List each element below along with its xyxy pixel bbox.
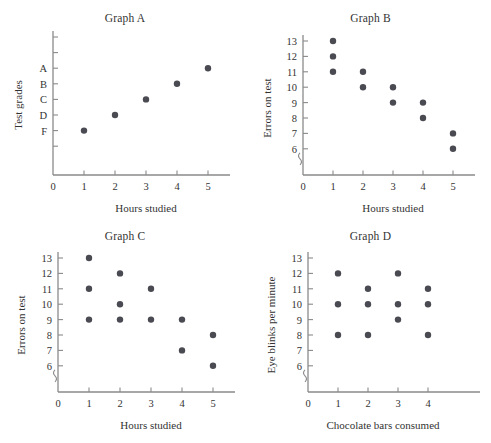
data-point <box>117 316 123 322</box>
y-tick-label: 10 <box>42 299 53 310</box>
x-origin-label: 0 <box>300 181 305 192</box>
data-point <box>330 69 336 75</box>
panel-graph-c: Graph C 123450Hours studied131211109876E… <box>0 220 250 443</box>
data-point <box>425 332 431 338</box>
y-tick-label: 8 <box>47 330 52 341</box>
y-axis-title: Eye blinks per minute <box>265 276 277 373</box>
data-point <box>174 81 180 87</box>
y-axis-title: Errors on test <box>261 78 273 137</box>
x-tick-label: 4 <box>420 181 426 192</box>
x-origin-label: 0 <box>50 181 55 192</box>
x-origin-label: 0 <box>305 398 310 409</box>
data-point <box>450 146 456 152</box>
y-tick-label: 8 <box>292 113 297 124</box>
data-point <box>210 363 216 369</box>
data-point <box>360 84 366 90</box>
y-tick-label: 12 <box>287 51 298 62</box>
data-point <box>390 84 396 90</box>
y-tick-label: 12 <box>42 268 53 279</box>
x-tick-label: 3 <box>143 181 148 192</box>
x-tick-label: 2 <box>365 398 370 409</box>
data-point <box>420 99 426 105</box>
y-tick-label: D <box>39 110 47 121</box>
y-tick-label: 9 <box>47 315 52 326</box>
data-point <box>425 301 431 307</box>
data-point <box>81 127 87 133</box>
y-tick-label: B <box>40 79 47 90</box>
x-tick-label: 2 <box>360 181 365 192</box>
data-point <box>117 270 123 276</box>
data-point <box>148 286 154 292</box>
data-point <box>395 270 401 276</box>
panel-graph-a: Graph A 123450Hours studiedABCDFTest gra… <box>0 0 250 220</box>
data-point <box>205 65 211 71</box>
x-tick-label: 1 <box>81 181 86 192</box>
y-tick-label: 7 <box>47 345 52 356</box>
y-tick-label: 7 <box>292 128 297 139</box>
x-tick-label: 5 <box>205 181 210 192</box>
data-point <box>425 286 431 292</box>
y-tick-label: 13 <box>287 36 298 47</box>
data-point <box>365 286 371 292</box>
data-point <box>86 286 92 292</box>
x-tick-label: 1 <box>335 398 340 409</box>
y-axis-title: Errors on test <box>15 295 27 354</box>
x-tick-label: 4 <box>179 398 185 409</box>
plot-area-graph-d: 12340Chocolate bars consumed131211109876… <box>250 220 491 443</box>
data-point <box>117 301 123 307</box>
x-origin-label: 0 <box>55 398 60 409</box>
x-tick-label: 3 <box>390 181 395 192</box>
y-tick-label: C <box>40 94 47 105</box>
y-tick-label: 11 <box>287 67 297 78</box>
plot-area-graph-a: 123450Hours studiedABCDFTest grades <box>0 0 250 220</box>
y-tick-label: F <box>41 126 47 137</box>
panel-graph-b: Graph B 123450Hours studied131211109876E… <box>250 0 491 220</box>
data-point <box>335 270 341 276</box>
data-point <box>330 53 336 59</box>
x-tick-label: 4 <box>174 181 180 192</box>
data-point <box>365 301 371 307</box>
data-point <box>390 99 396 105</box>
axis-break-icon <box>304 370 307 382</box>
x-axis-title: Hours studied <box>115 202 177 214</box>
y-tick-label: 8 <box>297 330 302 341</box>
plot-area-graph-c: 123450Hours studied131211109876Errors on… <box>0 220 250 443</box>
y-axis-title: Test grades <box>12 80 24 130</box>
y-tick-label: 6 <box>47 361 52 372</box>
x-axis-title: Hours studied <box>362 202 424 214</box>
panel-graph-d: Graph D 12340Chocolate bars consumed1312… <box>250 220 491 443</box>
y-tick-label: 9 <box>297 315 302 326</box>
axis-break-icon <box>54 370 57 382</box>
x-tick-label: 1 <box>86 398 91 409</box>
y-tick-label: 10 <box>287 82 298 93</box>
scatterplot-figure-grid: Graph A 123450Hours studiedABCDFTest gra… <box>0 0 491 443</box>
data-point <box>335 301 341 307</box>
data-point <box>86 255 92 261</box>
y-tick-label: 6 <box>292 144 297 155</box>
data-point <box>143 96 149 102</box>
y-tick-label: 13 <box>42 253 53 264</box>
data-point <box>148 316 154 322</box>
x-tick-label: 1 <box>330 181 335 192</box>
data-point <box>330 38 336 44</box>
x-tick-label: 3 <box>148 398 153 409</box>
axis-break-icon <box>299 153 302 165</box>
data-point <box>395 301 401 307</box>
x-tick-label: 5 <box>450 181 455 192</box>
x-axis-title: Hours studied <box>120 419 182 431</box>
data-point <box>420 115 426 121</box>
x-tick-label: 2 <box>117 398 122 409</box>
y-tick-label: 13 <box>292 253 303 264</box>
data-point <box>86 316 92 322</box>
y-tick-label: 12 <box>292 268 303 279</box>
y-tick-label: 11 <box>42 284 52 295</box>
data-point <box>360 69 366 75</box>
x-tick-label: 3 <box>395 398 400 409</box>
data-point <box>365 332 371 338</box>
data-point <box>450 130 456 136</box>
x-tick-label: 4 <box>425 398 431 409</box>
y-tick-label: A <box>39 63 47 74</box>
y-tick-label: 6 <box>297 361 302 372</box>
plot-area-graph-b: 123450Hours studied131211109876Errors on… <box>250 0 491 220</box>
data-point <box>210 332 216 338</box>
